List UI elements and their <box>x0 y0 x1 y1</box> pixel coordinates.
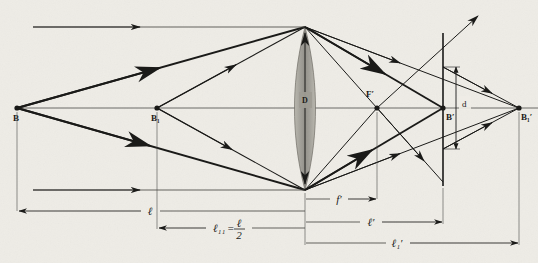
focal-point-marker <box>374 105 379 110</box>
dimension-fprime-label: f′ <box>336 193 342 205</box>
dimension-l-label: ℓ <box>148 205 153 217</box>
diagram-canvas: D B B₁ <box>0 0 538 263</box>
lens-diameter-label: D <box>302 96 308 105</box>
dimension-l1-symbol: ℓ₁ <box>213 222 222 234</box>
image-point-bprime-marker <box>440 105 445 110</box>
focal-point-label: F′ <box>366 89 374 99</box>
image-point-bprime-label: B′ <box>446 112 455 122</box>
dimension-l1-numerator: ℓ <box>237 217 242 229</box>
dimension-l1prime-label: ℓ₁′ <box>392 237 403 249</box>
dimension-l1-subscript: 1 <box>222 228 225 235</box>
blur-circle-label: d <box>462 99 467 109</box>
lens-ray-diagram: D B B₁ <box>0 0 538 263</box>
dimension-lprime-label: ℓ′ <box>368 216 376 228</box>
image-point-b1prime-marker <box>516 105 521 110</box>
point-b1-label: B₁ <box>151 113 160 123</box>
dimension-l1-equals: = <box>227 222 234 234</box>
image-point-b1prime-label: B₁′ <box>521 112 532 122</box>
dimension-l1-denominator: 2 <box>236 229 242 241</box>
point-b-label: B <box>13 113 19 123</box>
